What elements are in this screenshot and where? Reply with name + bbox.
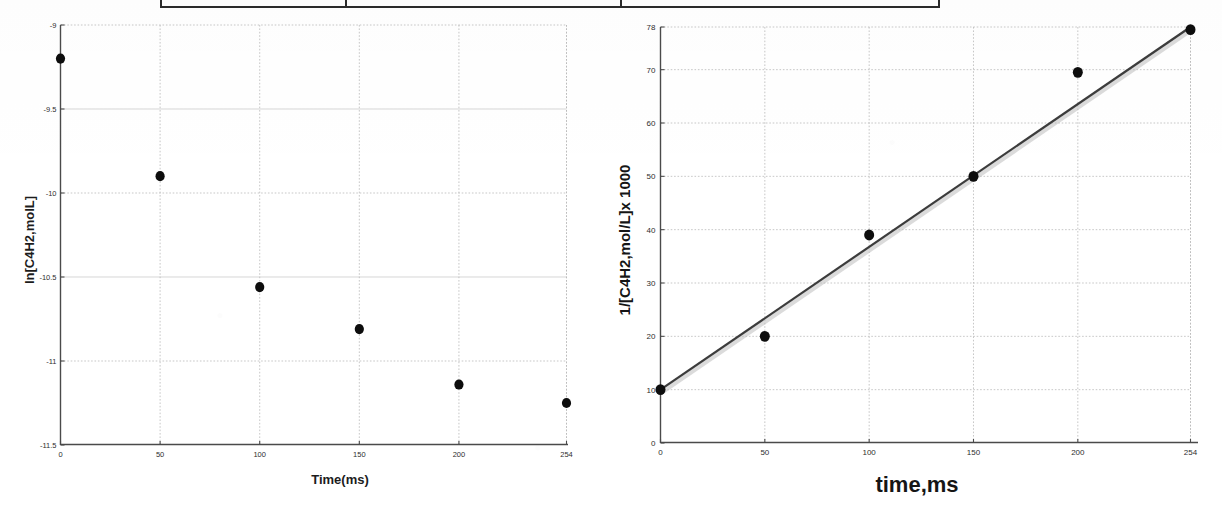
left-y-tick-labels: -9-9.5-10-10.5-11-11.5 (39, 21, 56, 450)
right-chart-svg: 050100150200254 01020304050607078 time,m… (612, 0, 1222, 509)
right-gridlines (661, 27, 1191, 443)
right-x-axis-title: time,ms (875, 472, 958, 497)
left-tick-marks (61, 25, 567, 445)
table-cell-extra: 7.14 (622, 0, 938, 6)
right-y-tick-label: 50 (647, 172, 656, 181)
left-data-point (255, 282, 264, 292)
left-plot-frame (61, 25, 569, 445)
right-y-tick-label: 10 (647, 386, 656, 395)
right-data-point (864, 230, 874, 241)
left-x-axis-title: Time(ms) (311, 472, 369, 487)
left-data-point (156, 171, 165, 181)
right-x-tick-label: 200 (1071, 448, 1085, 457)
right-y-tick-labels: 01020304050607078 (647, 23, 656, 448)
left-y-tick-label: -9.5 (44, 105, 57, 114)
left-x-tick-label: 100 (253, 450, 266, 459)
right-x-tick-label: 0 (658, 448, 663, 457)
left-y-tick-label: -11 (46, 357, 56, 366)
chart-inverse-concentration-vs-time: 050100150200254 01020304050607078 time,m… (612, 0, 1222, 509)
left-gridlines (61, 25, 567, 445)
right-y-tick-label: 60 (647, 119, 656, 128)
right-y-tick-label: 20 (647, 332, 656, 341)
right-y-tick-label: 0 (651, 439, 656, 448)
left-x-tick-label: 0 (58, 450, 62, 459)
right-data-point (1073, 67, 1083, 78)
chart-ln-concentration-vs-time: 050100150200254 -9-9.5-10-10.5-11-11.5 T… (0, 0, 620, 509)
right-trend-shadow (662, 30, 1192, 393)
right-tick-marks (661, 27, 1191, 443)
right-data-point (1186, 24, 1196, 35)
left-y-axis-title: ln[C4H2,molL] (22, 196, 37, 284)
left-data-point (355, 324, 364, 334)
right-x-tick-label: 100 (862, 448, 876, 457)
right-plot-frame (661, 27, 1199, 443)
left-chart-svg: 050100150200254 -9-9.5-10-10.5-11-11.5 T… (0, 0, 620, 509)
left-data-point (562, 398, 571, 408)
right-y-tick-label: 30 (647, 279, 656, 288)
data-table-fragment: 250 11.2533311 7.14 (160, 0, 940, 8)
left-data-points (56, 54, 571, 409)
right-y-tick-label: 78 (647, 23, 656, 32)
right-data-point (968, 171, 978, 182)
left-data-point (454, 379, 463, 389)
left-y-tick-label: -10.5 (39, 273, 56, 282)
right-y-tick-label: 40 (647, 226, 656, 235)
left-x-tick-labels: 050100150200254 (58, 450, 572, 459)
left-y-tick-label: -11.5 (40, 441, 57, 450)
right-y-axis-title: 1/[C4H2,mol/L]x 1000 (616, 165, 633, 316)
left-data-point (56, 54, 65, 64)
right-x-tick-label: 254 (1184, 448, 1198, 457)
left-y-tick-label: -10 (46, 189, 57, 198)
right-y-tick-label: 70 (647, 66, 656, 75)
right-data-point (656, 384, 666, 395)
left-x-tick-label: 150 (353, 450, 366, 459)
right-x-tick-labels: 050100150200254 (658, 448, 1197, 457)
right-x-tick-label: 50 (760, 448, 769, 457)
right-trend-stroke (661, 27, 1191, 390)
right-x-tick-label: 150 (967, 448, 981, 457)
left-y-tick-label: -9 (50, 21, 57, 30)
left-x-tick-label: 50 (156, 450, 164, 459)
table-cell-time: 250 (162, 0, 347, 6)
right-data-point (760, 331, 770, 342)
table-cell-value: 11.2533311 (347, 0, 622, 6)
left-x-tick-label: 200 (453, 450, 466, 459)
left-x-tick-label: 254 (560, 450, 573, 459)
right-trend-line (661, 27, 1193, 392)
